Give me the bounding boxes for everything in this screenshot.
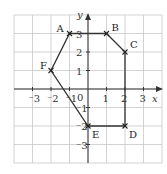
- x-tick-label: ⁻3: [29, 93, 41, 104]
- point-label-F: F: [40, 60, 47, 71]
- point-label-E: E: [92, 129, 99, 140]
- origin-label: 0: [77, 92, 83, 103]
- y-axis-label: y: [76, 9, 83, 20]
- y-tick-label: 1: [76, 66, 82, 77]
- x-tick-label: 1: [103, 93, 109, 104]
- y-tick-label: ⁻3: [76, 140, 88, 151]
- y-tick-label: 2: [76, 47, 82, 58]
- point-label-B: B: [112, 22, 119, 33]
- x-tick-label: 3: [140, 93, 146, 104]
- x-tick-label: 2: [121, 93, 127, 104]
- point-label-A: A: [56, 23, 65, 34]
- x-axis-label: x: [152, 93, 158, 104]
- point-label-D: D: [129, 129, 137, 140]
- x-tick-label: ⁻2: [47, 93, 59, 104]
- y-axis-arrow-icon: [85, 13, 91, 20]
- points: ABCDEF: [40, 22, 138, 141]
- point-label-C: C: [130, 39, 138, 50]
- axes: x y 0: [14, 9, 163, 163]
- coordinate-diagram: x y 0 ⁻3⁻2⁻1123321⁻1⁻2⁻3 ABCDEF: [0, 0, 167, 174]
- y-tick-label: ⁻1: [76, 103, 88, 114]
